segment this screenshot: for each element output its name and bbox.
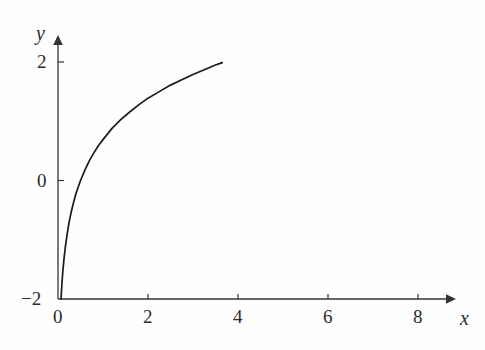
x-axis-label: x — [460, 308, 469, 328]
x-tick-label-8: 8 — [413, 307, 423, 326]
y-tick-label-0: 0 — [37, 171, 47, 190]
x-tick-label-4: 4 — [233, 307, 243, 326]
x-tick-label-2: 2 — [143, 307, 153, 326]
y-axis-arrowhead — [53, 35, 63, 45]
data-curve-ln — [61, 63, 222, 299]
x-tick-label-0: 0 — [53, 307, 63, 326]
x-axis-arrowhead — [446, 294, 456, 304]
y-tick-label-2: 2 — [37, 52, 47, 71]
x-tick-label-6: 6 — [323, 307, 333, 326]
y-tick-label-neg2: −2 — [21, 289, 41, 308]
y-axis-label: y — [36, 23, 45, 43]
chart-figure: y 2 0 −2 0 2 4 6 8 x — [0, 0, 485, 350]
plot-canvas — [0, 0, 485, 350]
x-axis — [58, 294, 456, 304]
y-axis — [53, 35, 64, 299]
